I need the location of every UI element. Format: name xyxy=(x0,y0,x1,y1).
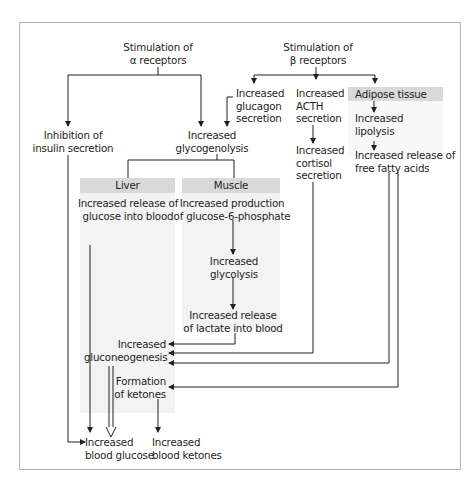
acth-label: Increased ACTH secretion xyxy=(296,87,344,125)
alpha-stimulation-label: Stimulation of α receptors xyxy=(123,41,192,66)
g6p-label: Increased production of glucose-6-phosph… xyxy=(174,197,291,222)
glycolysis-label: Increased glycolysis xyxy=(210,255,258,280)
beta-stimulation-label: Stimulation of β receptors xyxy=(283,41,352,66)
increased-blood-ketones-label: Increased blood ketones xyxy=(152,436,222,461)
glucagon-label: Increased glucagon secretion xyxy=(236,87,284,125)
lactate-release-label: Increased release of lactate into blood xyxy=(183,309,282,334)
gluconeogenesis-label: Increased gluconeogenesis xyxy=(94,338,166,363)
glycogenolysis-label: Increased glycogenolysis xyxy=(176,129,249,154)
cortisol-label: Increased cortisol secretion xyxy=(296,144,344,182)
ketone-formation-label: Formation of ketones xyxy=(94,375,166,400)
lipolysis-label: Increased lipolysis xyxy=(355,112,403,137)
liver-glucose-release-label: Increased release of glucose into blood xyxy=(78,197,178,222)
inhibition-insulin-label: Inhibition of insulin secretion xyxy=(33,129,114,154)
stress-hormone-metabolism-diagram: Liver Muscle Adipose tissue xyxy=(0,0,473,487)
increased-blood-glucose-label: Increased blood glucose xyxy=(85,436,154,461)
connector-lines xyxy=(0,0,473,487)
ffa-release-label: Increased release of free fatty acids xyxy=(355,149,455,174)
